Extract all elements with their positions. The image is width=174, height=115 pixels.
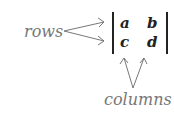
row-arrow-top-icon: [64, 18, 104, 31]
column-arrow-left-icon: [120, 58, 133, 88]
columns-label: columns: [104, 90, 172, 109]
row-arrow-bottom-icon: [64, 31, 104, 45]
column-arrow-right-icon: [133, 58, 147, 88]
